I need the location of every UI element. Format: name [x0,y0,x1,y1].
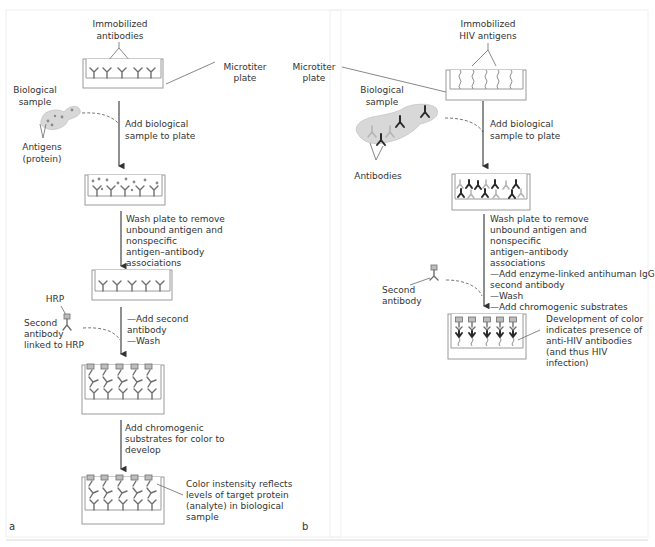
step-a4-line1: Add chromogenic [125,423,204,433]
microtiter-plate-3 [92,270,172,300]
step-b2-line7: second antibody [490,280,565,290]
second-antibody-hrp-icon [63,314,71,330]
panel-b: Immobilized HIV antigens Microtiter plat… [292,19,654,532]
biological-sample-blob-b [356,104,437,145]
step-a1-line2: sample to plate [125,131,196,141]
step-b2-line2: unbound antigen and [490,225,587,235]
result-label-a-3: (analyte) in biological [186,501,283,511]
second-antibody-label-a-2: antibody [24,329,64,339]
second-antibody-label-b: Second [382,285,415,295]
immobilized-antibodies-label-2: antibodies [97,31,144,41]
microtiter-plate-1 [83,59,163,88]
panel-a: Immobilized antibodies Microtiter plate … [9,19,293,532]
step-a2-line4: antigen–antibody [126,247,205,257]
step-b2-line8: —Wash [490,291,523,301]
step-b2-line5: associations [490,258,546,268]
second-antibody-label-b-2: antibody [382,296,422,306]
result-label-a-2: levels of target protein [186,490,289,500]
antigens-label: Antigens [22,142,62,152]
step-a2-line3: nonspecific [126,236,177,246]
result-label-b-1: Development of color [546,314,643,324]
step-b2-line9: —Add chromogenic substrates [490,302,628,312]
second-antibody-label-a: Second [24,318,57,328]
result-label-a-4: sample [186,512,219,522]
microtiter-plate-label-a-2: plate [234,73,257,83]
second-antibody-label-a-3: linked to HRP [24,340,85,350]
step-b1-line2: sample to plate [490,131,561,141]
biological-sample-label-b: Biological [360,85,403,95]
microtiter-plate-label-b-2: plate [303,73,326,83]
step-a4-line3: develop [125,445,161,455]
step-b1-line1: Add biological [490,119,553,129]
immobilized-antibodies-label: Immobilized [93,19,148,29]
step-a2-line1: Wash plate to remove [126,214,225,224]
second-antibody-hrp-icon-b [430,265,438,280]
microtiter-plate-5 [82,475,164,524]
step-b2-line1: Wash plate to remove [490,214,589,224]
step-a3-line3: —Wash [127,336,160,346]
panel-label-a: a [9,521,15,532]
immobilized-hiv-antigens-label: Immobilized [461,19,516,29]
step-a2-line2: unbound antigen and [126,225,223,235]
step-a3-line1: —Add second [127,314,188,324]
hrp-label: HRP [46,294,65,304]
panel-label-b: b [302,521,308,532]
step-a1-line1: Add biological [125,119,188,129]
step-b2-line4: antigen–antibody [490,247,569,257]
step-b2-line6: —Add enzyme-linked antihuman IgG [490,269,655,279]
step-a3-line2: antibody [127,325,167,335]
microtiter-plate-4 [82,364,164,414]
step-a4-line2: substrates for color to [125,434,225,444]
microtiter-plate-b3 [448,314,526,359]
immobilized-hiv-antigens-label-2: HIV antigens [459,31,517,41]
antigens-label-2: (protein) [22,154,61,164]
microtiter-plate-b1 [446,70,526,100]
microtiter-plate-b2 [452,174,530,210]
step-a2-line5: associations [126,258,182,268]
result-label-a-1: Color instensity reflects [186,479,293,489]
microtiter-plate-label-a: Microtiter [223,62,266,72]
elisa-figure: Immobilized antibodies Microtiter plate … [0,0,655,547]
biological-sample-label-b-2: sample [366,97,399,107]
antibodies-label: Antibodies [354,171,402,181]
result-label-b-5: infection) [546,358,589,368]
biological-sample-label-a-2: sample [19,97,52,107]
result-label-b-4: (and thus HIV [546,347,608,357]
step-b2-line3: nonspecific [490,236,541,246]
biological-sample-blob-a [41,106,80,129]
biological-sample-label-a: Biological [13,85,56,95]
result-label-b-3: anti-HIV antibodies [546,336,632,346]
microtiter-plate-label-b: Microtiter [292,62,335,72]
result-label-b-2: indicates presence of [546,325,643,335]
microtiter-plate-2 [85,175,165,205]
